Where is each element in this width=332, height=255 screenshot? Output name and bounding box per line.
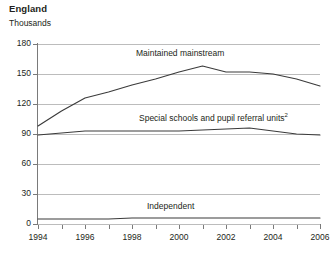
gridline xyxy=(38,224,320,225)
x-tick-mark xyxy=(85,225,86,229)
x-tick-mark xyxy=(132,225,133,229)
y-tick-label: 120 xyxy=(2,99,31,108)
series-label-special-schools: Special schools and pupil referral units… xyxy=(139,113,288,123)
series-label-maintained-mainstream: Maintained mainstream xyxy=(136,48,224,58)
x-tick-label: 1998 xyxy=(123,232,142,242)
series-label-special-schools-text: Special schools and pupil referral units xyxy=(139,113,285,123)
x-tick-label: 1996 xyxy=(76,232,95,242)
x-tick-mark xyxy=(38,225,39,229)
footnote-marker: 2 xyxy=(285,112,288,118)
x-tick-label: 1994 xyxy=(29,232,48,242)
x-tick-label: 2000 xyxy=(170,232,189,242)
series-label-independent: Independent xyxy=(147,201,194,211)
y-tick-label: 150 xyxy=(2,69,31,78)
x-tick-mark xyxy=(179,225,180,229)
x-tick-mark xyxy=(250,225,251,229)
x-tick-mark xyxy=(226,225,227,229)
x-tick-mark xyxy=(203,225,204,229)
x-tick-mark xyxy=(273,225,274,229)
y-tick-label: 90 xyxy=(2,129,31,138)
x-tick-label: 2006 xyxy=(311,232,330,242)
chart-title: England xyxy=(9,3,47,14)
y-tick-label: 30 xyxy=(2,189,31,198)
x-tick-mark xyxy=(320,225,321,229)
chart-container: England Thousands 1801501209060300 19941… xyxy=(0,0,332,255)
x-tick-label: 2004 xyxy=(264,232,283,242)
chart-subtitle: Thousands xyxy=(9,18,51,28)
y-tick-label: 0 xyxy=(2,219,31,228)
x-tick-mark xyxy=(297,225,298,229)
y-tick-label: 60 xyxy=(2,159,31,168)
x-tick-label: 2002 xyxy=(217,232,236,242)
x-tick-mark xyxy=(156,225,157,229)
series-lines xyxy=(38,44,320,224)
line-independent xyxy=(38,218,320,219)
x-tick-mark xyxy=(109,225,110,229)
line-special-schools xyxy=(38,128,320,135)
plot-area xyxy=(38,44,320,224)
y-tick-label: 180 xyxy=(2,39,31,48)
x-tick-mark xyxy=(62,225,63,229)
